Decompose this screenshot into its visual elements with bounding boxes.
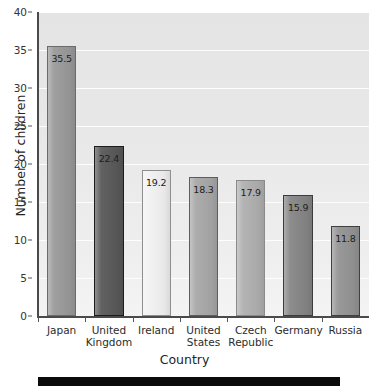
x-axis-category-label: Russia — [322, 324, 369, 336]
x-axis-tick-mark — [38, 317, 39, 322]
bar-shading — [95, 147, 122, 315]
y-axis-tick-label: 10 — [14, 234, 27, 246]
bar-chart-figure: Number of children 0510152025303540 35.5… — [0, 0, 369, 387]
y-axis-tick-mark — [28, 240, 32, 241]
x-axis-category-label: Czech Republic — [227, 324, 274, 348]
x-axis-category-label: United States — [180, 324, 227, 348]
y-axis-tick-mark — [28, 202, 32, 203]
bar[interactable]: 17.9 — [236, 180, 265, 316]
bar[interactable]: 35.5 — [47, 46, 76, 316]
plot-area: 35.522.419.218.317.915.911.8 — [38, 12, 369, 316]
gridline — [38, 164, 369, 165]
x-axis-tick-mark — [274, 317, 275, 322]
y-axis-tick-mark — [28, 12, 32, 13]
bar-shading — [143, 171, 170, 315]
y-axis-tick-mark — [28, 88, 32, 89]
bar-shading — [284, 196, 311, 315]
bar-value-label: 17.9 — [237, 187, 264, 198]
bar[interactable]: 15.9 — [283, 195, 312, 316]
y-axis-tick-label: 15 — [14, 196, 27, 208]
y-axis-tick-label: 30 — [14, 82, 27, 94]
y-axis-tick-group: 0510152025303540 — [0, 0, 34, 387]
y-axis-tick-mark — [28, 50, 32, 51]
x-axis-category-label: Japan — [38, 324, 85, 336]
bar[interactable]: 22.4 — [94, 146, 123, 316]
gridline — [38, 126, 369, 127]
gridline — [38, 50, 369, 51]
y-axis-line — [37, 12, 39, 317]
y-axis-tick-mark — [28, 278, 32, 279]
gridline — [38, 12, 369, 13]
x-axis-tick-mark — [85, 317, 86, 322]
bar-value-label: 15.9 — [284, 202, 311, 213]
bar-value-label: 22.4 — [95, 153, 122, 164]
gridline — [38, 88, 369, 89]
y-axis-tick-label: 5 — [20, 272, 27, 284]
bar[interactable]: 18.3 — [189, 177, 218, 316]
bar-value-label: 35.5 — [48, 53, 75, 64]
bar[interactable]: 19.2 — [142, 170, 171, 316]
bar-shading — [237, 181, 264, 315]
x-axis-tick-mark — [180, 317, 181, 322]
x-axis-category-label: Germany — [274, 324, 321, 336]
bar-shading — [190, 178, 217, 315]
y-axis-tick-label: 35 — [14, 44, 27, 56]
y-axis-tick-label: 25 — [14, 120, 27, 132]
bar-value-label: 19.2 — [143, 177, 170, 188]
y-axis-tick-mark — [28, 126, 32, 127]
bar[interactable]: 11.8 — [331, 226, 360, 316]
y-axis-tick-label: 40 — [14, 6, 27, 18]
bottom-rule — [38, 377, 340, 386]
x-axis-category-label: Ireland — [133, 324, 180, 336]
x-axis-line — [37, 316, 369, 318]
y-axis-tick-mark — [28, 164, 32, 165]
bar-value-label: 11.8 — [332, 233, 359, 244]
x-axis-category-label: United Kingdom — [85, 324, 132, 348]
x-axis-tick-mark — [227, 317, 228, 322]
y-axis-tick-label: 20 — [14, 158, 27, 170]
y-axis-tick-mark — [28, 316, 32, 317]
x-axis-tick-mark — [322, 317, 323, 322]
y-axis-tick-label: 0 — [20, 310, 27, 322]
bar-shading — [48, 47, 75, 315]
x-axis-tick-mark — [133, 317, 134, 322]
x-axis-title: Country — [0, 352, 369, 367]
bar-value-label: 18.3 — [190, 184, 217, 195]
